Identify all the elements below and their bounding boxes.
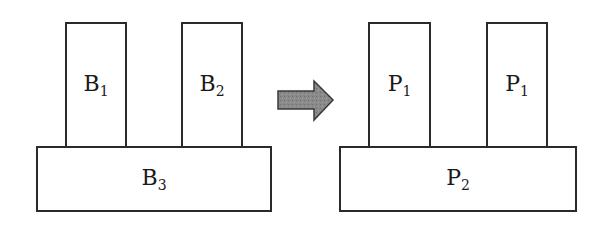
block-p2-label: P2 bbox=[446, 165, 470, 193]
block-p1-right: P1 bbox=[486, 22, 548, 148]
block-p1-right-label: P1 bbox=[505, 71, 529, 99]
block-p1-left-label: P1 bbox=[388, 71, 412, 99]
block-p1-left: P1 bbox=[368, 22, 431, 148]
block-p2: P2 bbox=[339, 146, 577, 212]
